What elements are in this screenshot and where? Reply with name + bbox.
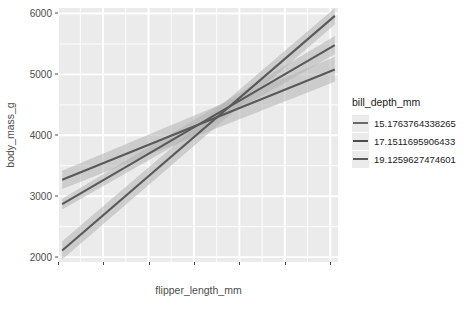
x-axis-tick-mark: [194, 262, 195, 265]
legend-key-swatch: [352, 133, 369, 150]
y-axis-tick-label: 4000: [8, 130, 52, 141]
legend-item-label: 17.1511695906433: [374, 136, 455, 147]
legend-key-swatch: [352, 115, 369, 132]
legend-items: 15.176376433826517.151169590643319.12596…: [352, 114, 468, 168]
chart-legend: bill_depth_mm 15.176376433826517.1511695…: [352, 96, 468, 168]
y-axis-tick-label: 5000: [8, 69, 52, 80]
legend-line-icon: [353, 140, 368, 142]
y-axis-tick-mark: [55, 196, 58, 197]
x-axis-tick-mark: [285, 262, 286, 265]
y-axis-tick-mark: [55, 13, 58, 14]
legend-line-icon: [353, 122, 368, 124]
x-axis-title-label: flipper_length_mm: [155, 284, 241, 296]
legend-item[interactable]: 19.1259627474601: [352, 150, 468, 168]
legend-item[interactable]: 17.1511695906433: [352, 132, 468, 150]
y-axis-tick-mark: [55, 74, 58, 75]
legend-line-icon: [353, 158, 368, 160]
legend-key-swatch: [352, 151, 369, 168]
chart-plot-area: body_mass_g 20003000400050006000 1701801…: [0, 0, 468, 310]
chart-canvas: [59, 8, 338, 262]
y-axis-tick-label: 3000: [8, 191, 52, 202]
x-axis-tick-mark: [103, 262, 104, 265]
x-axis-title: flipper_length_mm: [59, 284, 338, 296]
legend-item-label: 19.1259627474601: [374, 154, 456, 165]
legend-title: bill_depth_mm: [352, 96, 468, 108]
y-axis-tick-mark: [55, 135, 58, 136]
x-axis-tick-mark: [239, 262, 240, 265]
y-axis-tick-label: 6000: [8, 8, 52, 19]
x-axis-tick-labels: 170180190200210220230: [0, 262, 468, 284]
x-axis-tick-mark: [149, 262, 150, 265]
legend-item[interactable]: 15.1763764338265: [352, 114, 468, 132]
chart-panel: [59, 8, 338, 262]
y-axis-tick-label: 2000: [8, 252, 52, 263]
x-axis-tick-mark: [330, 262, 331, 265]
x-axis-tick-mark: [58, 262, 59, 265]
legend-item-label: 15.1763764338265: [374, 118, 456, 129]
y-axis-tick-mark: [55, 257, 58, 258]
